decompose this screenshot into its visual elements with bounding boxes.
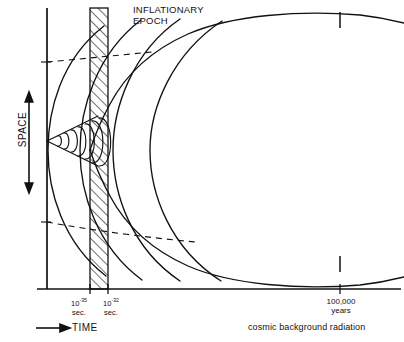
tick-1e32-exponent: -32 [111,297,119,303]
cosmology-diagram: INFLATIONARY EPOCH SPACE TIME 10-35 sec.… [0,0,404,342]
inflationary-epoch-line1: INFLATIONARY [133,4,204,15]
time-arrow [36,324,70,332]
x-tick-label-1e32: 10-32 sec. [94,297,128,317]
wavefront-arc-4 [150,21,222,281]
tick-1e32-unit: sec. [94,308,128,317]
cosmic-background-radiation-caption: cosmic background radiation [248,322,365,332]
cone-shell-3 [71,130,77,152]
diagram-canvas [0,0,404,342]
tick-1e35-exponent: -35 [79,297,87,303]
time-axis-label: TIME [72,322,98,333]
lower-envelope-curve [90,150,404,287]
tick-100k-value: 100,000 [327,297,356,306]
tick-100k-unit: years [306,306,376,315]
wavefront-arc-2 [80,20,142,280]
wavefront-arc-3 [113,19,180,281]
cone-shell-1 [58,136,61,146]
inflationary-epoch-label: INFLATIONARY EPOCH [133,5,204,26]
cone-shell-4 [78,127,86,156]
tick-1e35-unit: sec. [62,308,96,317]
inflationary-epoch-line2: EPOCH [133,16,204,27]
x-tick-label-1e35: 10-35 sec. [62,297,96,317]
cone-shell-2 [64,133,69,149]
space-axis-label: SPACE [17,100,28,160]
upper-envelope-curve [90,13,404,150]
inflationary-epoch-band [90,8,108,289]
x-tick-label-100000-years: 100,000 years [306,297,376,315]
